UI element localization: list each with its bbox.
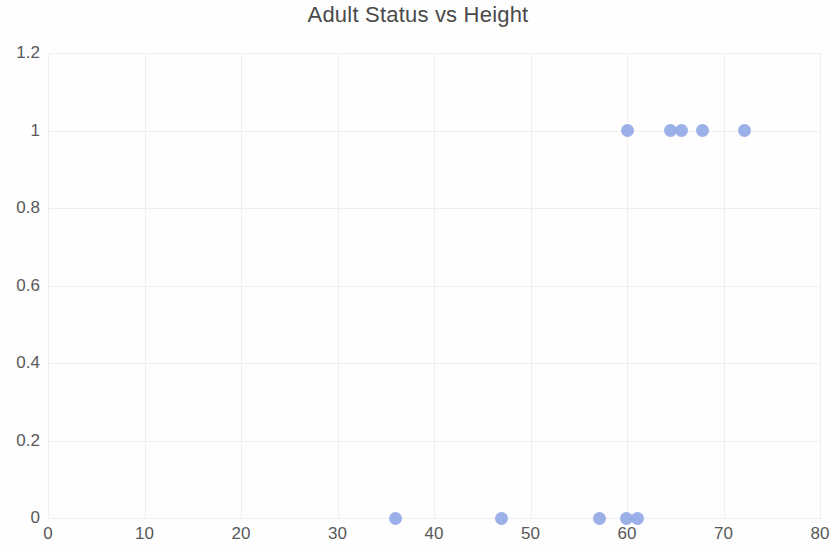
gridline-vertical xyxy=(434,53,435,518)
gridline-vertical xyxy=(145,53,146,518)
data-point xyxy=(389,512,402,525)
x-axis-tick-label: 0 xyxy=(18,524,78,544)
plot-area xyxy=(48,53,820,518)
x-axis-tick-label: 70 xyxy=(694,524,754,544)
y-axis-tick-label: 1.2 xyxy=(0,43,40,63)
gridline-vertical xyxy=(338,53,339,518)
y-axis-tick-label: 0.8 xyxy=(0,198,40,218)
gridline-vertical xyxy=(531,53,532,518)
x-axis-tick-label: 30 xyxy=(308,524,368,544)
gridline-vertical xyxy=(820,53,821,518)
chart-title: Adult Status vs Height xyxy=(0,2,836,28)
gridline-vertical xyxy=(48,53,49,518)
y-axis-tick-label: 1 xyxy=(0,121,40,141)
x-axis-tick-label: 60 xyxy=(597,524,657,544)
data-point xyxy=(696,124,709,137)
y-axis-tick-label: 0.4 xyxy=(0,353,40,373)
data-point xyxy=(621,124,634,137)
data-point xyxy=(593,512,606,525)
data-point xyxy=(738,124,751,137)
x-axis-tick-label: 10 xyxy=(115,524,175,544)
data-point xyxy=(631,512,644,525)
gridline-vertical xyxy=(241,53,242,518)
x-axis-tick-label: 80 xyxy=(790,524,836,544)
x-axis-tick-label: 50 xyxy=(501,524,561,544)
data-point xyxy=(495,512,508,525)
data-point xyxy=(675,124,688,137)
x-axis-tick-label: 20 xyxy=(211,524,271,544)
y-axis-tick-label: 0.6 xyxy=(0,276,40,296)
scatter-chart: Adult Status vs Height 00.20.40.60.811.2… xyxy=(0,0,836,554)
y-axis-tick-label: 0.2 xyxy=(0,431,40,451)
gridline-vertical xyxy=(724,53,725,518)
gridline-horizontal xyxy=(48,518,820,519)
x-axis-tick-label: 40 xyxy=(404,524,464,544)
gridline-vertical xyxy=(627,53,628,518)
